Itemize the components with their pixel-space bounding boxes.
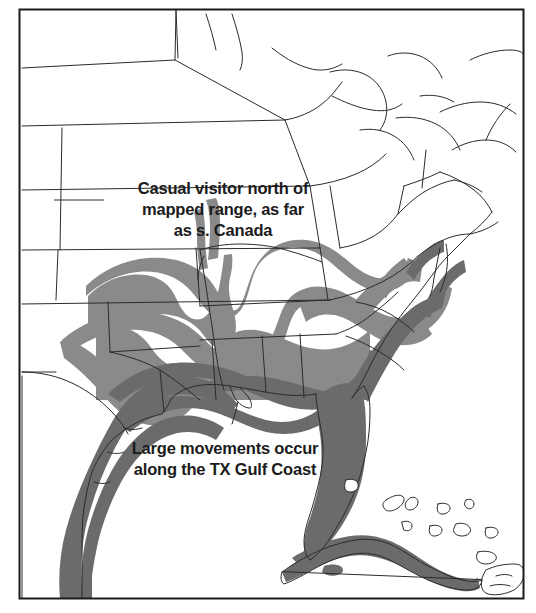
map-canvas	[0, 0, 536, 613]
range-map-figure: Casual visitor north of mapped range, as…	[0, 0, 536, 613]
